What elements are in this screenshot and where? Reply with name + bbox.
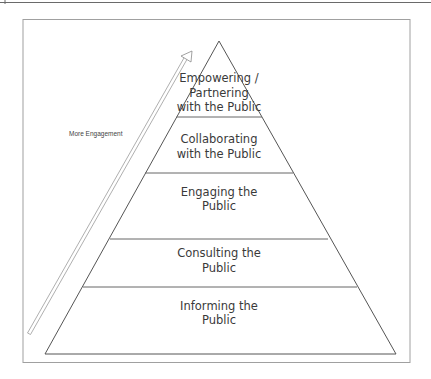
tier-4-line-1: Consulting the xyxy=(177,246,261,260)
tier-3-line-2: Public xyxy=(202,199,236,213)
tier-3-line-1: Engaging the xyxy=(181,185,258,199)
tier-1-line-2: Partnering xyxy=(189,86,249,100)
tier-empowering: Empowering / Partnering with the Public xyxy=(177,71,262,114)
tier-1-line-3: with the Public xyxy=(177,100,262,114)
tier-5-line-1: Informing the xyxy=(180,299,258,313)
pyramid-diagram: More Engagement Empowering / Partnering … xyxy=(0,0,431,379)
tier-4-line-2: Public xyxy=(202,261,236,275)
tier-2-line-1: Collaborating xyxy=(181,132,258,146)
tier-5-line-2: Public xyxy=(202,313,236,327)
arrow-label: More Engagement xyxy=(69,130,123,138)
tier-1-line-1: Empowering / xyxy=(179,71,258,85)
tier-2-line-2: with the Public xyxy=(177,147,262,161)
tier-collaborating: Collaborating with the Public xyxy=(177,132,262,161)
